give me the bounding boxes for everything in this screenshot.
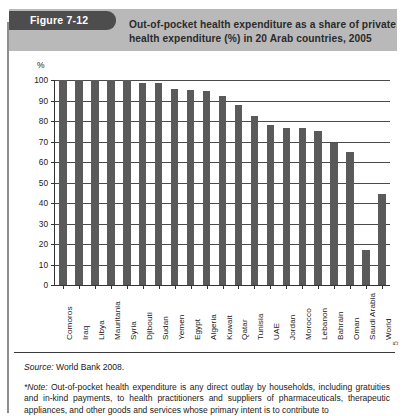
figure-title: Out-of-pocket health expenditure as a sh…: [129, 18, 397, 45]
x-tick-label: Qatar: [240, 319, 249, 340]
note-block: *Note: Out-of-pocket health expenditure …: [24, 382, 390, 416]
x-tick-label: Bahrain: [336, 311, 345, 340]
bar-mauritania: [107, 80, 115, 285]
note-label: *Note:: [24, 382, 48, 392]
source-line: Source: World Bank 2008.: [24, 362, 124, 372]
bar-uae: [267, 125, 275, 285]
bar-libya: [91, 80, 99, 285]
source-label: Source:: [24, 362, 54, 372]
page-number: 5: [391, 341, 400, 345]
bar-comoros: [59, 80, 67, 285]
y-tick-label: 50: [39, 178, 48, 188]
bar-bahrain: [330, 143, 338, 285]
x-tick-label: Yemen: [177, 315, 186, 340]
chart-bars: [55, 80, 390, 285]
x-tick-label: Iraq: [81, 326, 90, 340]
bar-algeria: [203, 91, 211, 285]
bar-oman: [346, 152, 354, 285]
bar-lebanon: [314, 131, 322, 285]
y-tick-label: 20: [39, 239, 48, 249]
x-tick-label: Djibouti: [145, 312, 154, 340]
source-text: World Bank 2008.: [56, 362, 124, 372]
y-tick-label: 0: [43, 280, 48, 290]
x-tick-label: Mauritania: [113, 301, 122, 340]
y-axis-unit-label: %: [37, 60, 45, 70]
x-tick-label: UAE: [272, 323, 281, 340]
x-tick-label: Morocco: [304, 308, 313, 340]
y-tick-label: 10: [39, 260, 48, 270]
figure-title-line-2: health expenditure (%) in 20 Arab countr…: [129, 32, 397, 46]
y-tick-mark: [51, 285, 55, 286]
chart-plot-area: 0102030405060708090100: [54, 80, 390, 286]
x-tick-label: Kuwait: [225, 315, 234, 340]
bar-jordan: [283, 128, 291, 285]
bar-sudan: [155, 83, 163, 285]
y-tick-label: 40: [39, 198, 48, 208]
x-tick-label: Comoros: [65, 306, 74, 340]
x-tick-label: Algeria: [209, 314, 218, 340]
bar-world: [378, 194, 386, 285]
x-tick-label: Libya: [97, 320, 106, 340]
bar-iraq: [75, 80, 83, 285]
footer-divider: [14, 352, 395, 353]
x-axis-labels: ComorosIraqLibyaMauritaniaSyriaDjiboutiS…: [54, 288, 394, 343]
x-tick-label: Lebanon: [320, 308, 329, 340]
x-tick-label: Tunisia: [256, 314, 265, 341]
y-tick-label: 70: [39, 137, 48, 147]
y-tick-label: 30: [39, 219, 48, 229]
y-tick-label: 80: [39, 116, 48, 126]
x-tick-label: Saudi Arabia: [368, 293, 377, 340]
bar-qatar: [235, 105, 243, 285]
x-tick-label: Egypt: [193, 319, 202, 340]
x-tick-label: Oman: [352, 318, 361, 340]
bar-djibouti: [139, 83, 147, 285]
chart-container: % 0102030405060708090100 ComorosIraqLiby…: [14, 56, 395, 341]
figure-title-line-1: Out-of-pocket health expenditure as a sh…: [129, 19, 396, 30]
page-margin-rule: [7, 22, 9, 413]
bar-yemen: [171, 89, 179, 285]
x-tick-label: Sudan: [161, 316, 170, 340]
y-tick-label: 100: [34, 75, 48, 85]
y-tick-label: 90: [39, 96, 48, 106]
x-tick-label: Syria: [129, 321, 138, 340]
bar-tunisia: [251, 116, 259, 285]
note-text: Out-of-pocket health expenditure is any …: [24, 382, 390, 415]
y-tick-label: 60: [39, 157, 48, 167]
bar-morocco: [299, 128, 307, 285]
x-tick-label: Jordan: [288, 315, 297, 340]
x-tick-label: World: [384, 319, 393, 341]
bar-egypt: [187, 90, 195, 285]
figure-number-label: Figure 7-12: [30, 14, 88, 26]
figure-number-tab: Figure 7-12: [9, 11, 116, 30]
bar-saudi-arabia: [362, 250, 370, 285]
bar-kuwait: [219, 96, 227, 285]
bar-syria: [123, 80, 131, 285]
